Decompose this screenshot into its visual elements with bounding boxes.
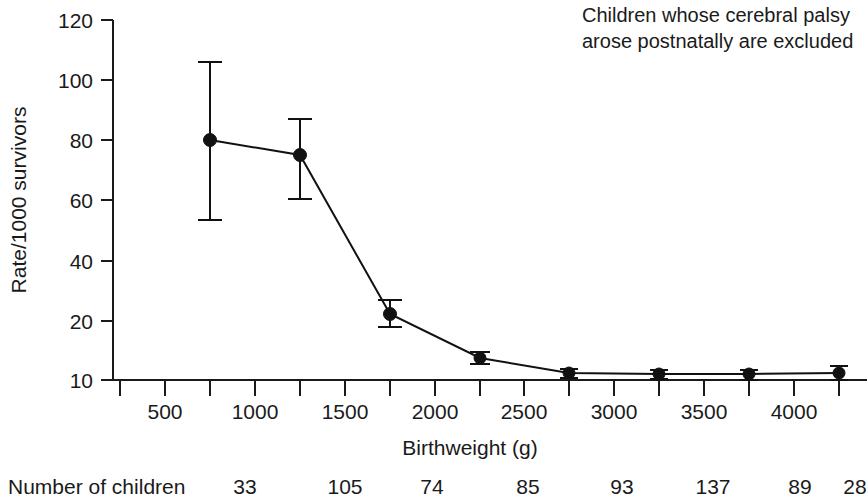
count-value-2750: 93 <box>610 475 633 498</box>
x-tick-label-3000: 3000 <box>591 400 638 423</box>
x-axis-tick-labels: 500 1000 1500 2000 2500 3000 3500 4000 <box>147 400 817 423</box>
data-point-3750 <box>743 368 755 380</box>
y-tick-label-60: 60 <box>70 189 93 212</box>
number-of-children-label: Number of children <box>8 475 185 498</box>
data-point-3250 <box>653 368 665 380</box>
count-value-4250: 28 <box>843 475 866 498</box>
error-bars <box>198 62 848 380</box>
x-tick-label-4000: 4000 <box>771 400 818 423</box>
y-axis-title: Rate/1000 survivors <box>7 107 30 294</box>
x-tick-label-500: 500 <box>147 400 182 423</box>
count-value-750: 33 <box>233 475 256 498</box>
x-tick-label-2500: 2500 <box>501 400 548 423</box>
chart-canvas: Children whose cerebral palsy arose post… <box>0 0 867 502</box>
count-value-3250: 137 <box>695 475 730 498</box>
data-point-2750 <box>563 367 575 379</box>
x-axis-ticks <box>120 380 839 396</box>
x-tick-label-1500: 1500 <box>322 400 369 423</box>
y-tick-label-100: 100 <box>58 69 93 92</box>
y-tick-label-10: 10 <box>70 369 93 392</box>
annotation-line-1: Children whose cerebral palsy <box>582 4 850 26</box>
cerebral-palsy-rate-chart: Children whose cerebral palsy arose post… <box>0 0 867 502</box>
x-tick-label-2000: 2000 <box>412 400 459 423</box>
x-axis-title: Birthweight (g) <box>402 436 537 459</box>
data-point-750 <box>204 134 217 147</box>
chart-annotation: Children whose cerebral palsy arose post… <box>582 4 853 52</box>
data-point-1750 <box>384 308 397 321</box>
x-tick-label-3500: 3500 <box>681 400 728 423</box>
number-of-children-row: Number of children 33 105 74 85 93 137 8… <box>8 475 867 498</box>
y-tick-label-120: 120 <box>58 9 93 32</box>
count-value-1250: 105 <box>327 475 362 498</box>
x-tick-label-1000: 1000 <box>232 400 279 423</box>
annotation-line-2: arose postnatally are excluded <box>582 30 853 52</box>
y-tick-label-20: 20 <box>70 310 93 333</box>
count-value-1750: 74 <box>420 475 444 498</box>
y-axis-ticks <box>101 20 113 380</box>
y-axis-tick-labels: 120 100 80 60 40 20 10 <box>58 9 93 392</box>
data-series-line <box>210 140 839 374</box>
data-point-2250 <box>474 352 486 364</box>
count-value-3750: 89 <box>788 475 811 498</box>
y-tick-label-40: 40 <box>70 250 93 273</box>
data-point-4250 <box>833 367 845 379</box>
data-point-1250 <box>294 149 307 162</box>
count-value-2250: 85 <box>516 475 539 498</box>
y-tick-label-80: 80 <box>70 129 93 152</box>
